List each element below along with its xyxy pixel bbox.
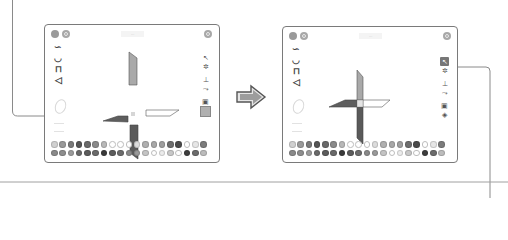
color-swatch[interactable] xyxy=(134,150,141,157)
color-swatch[interactable] xyxy=(59,150,66,157)
color-swatch[interactable] xyxy=(126,150,133,157)
color-swatch[interactable] xyxy=(372,150,379,157)
color-palette xyxy=(51,141,207,157)
color-swatch[interactable] xyxy=(430,141,437,148)
color-swatch[interactable] xyxy=(167,150,174,157)
color-swatch[interactable] xyxy=(405,141,412,148)
color-palette xyxy=(289,141,445,157)
color-swatch[interactable] xyxy=(126,141,133,148)
color-swatch[interactable] xyxy=(167,141,174,148)
color-swatch[interactable] xyxy=(297,150,304,157)
color-swatch[interactable] xyxy=(413,150,420,157)
before-panel: ... ∽ ◡ ⊓ ◁ ↖ ✲ ⊥ ⤳ ▣ xyxy=(44,24,220,163)
color-swatch[interactable] xyxy=(339,141,346,148)
color-swatch[interactable] xyxy=(314,141,321,148)
callout-line-right xyxy=(455,67,490,198)
color-swatch[interactable] xyxy=(289,150,296,157)
color-swatch[interactable] xyxy=(347,150,354,157)
color-swatch[interactable] xyxy=(339,150,346,157)
color-swatch[interactable] xyxy=(314,150,321,157)
color-swatch[interactable] xyxy=(134,141,141,148)
color-swatch[interactable] xyxy=(397,141,404,148)
color-swatch[interactable] xyxy=(84,141,91,148)
color-swatch[interactable] xyxy=(76,141,83,148)
color-swatch[interactable] xyxy=(51,150,58,157)
color-swatch[interactable] xyxy=(101,150,108,157)
color-swatch[interactable] xyxy=(306,141,313,148)
color-swatch[interactable] xyxy=(68,141,75,148)
color-swatch[interactable] xyxy=(355,150,362,157)
color-swatch[interactable] xyxy=(380,150,387,157)
color-swatch[interactable] xyxy=(355,141,362,148)
color-swatch[interactable] xyxy=(184,141,191,148)
color-swatch[interactable] xyxy=(151,141,158,148)
color-swatch[interactable] xyxy=(159,141,166,148)
color-swatch[interactable] xyxy=(117,150,124,157)
color-swatch[interactable] xyxy=(184,150,191,157)
color-swatch[interactable] xyxy=(322,150,329,157)
color-swatch[interactable] xyxy=(151,150,158,157)
center-marker xyxy=(357,100,363,107)
color-swatch[interactable] xyxy=(159,150,166,157)
color-swatch[interactable] xyxy=(430,150,437,157)
color-swatch[interactable] xyxy=(422,150,429,157)
color-swatch[interactable] xyxy=(175,141,182,148)
color-swatch[interactable] xyxy=(405,150,412,157)
color-swatch[interactable] xyxy=(364,141,371,148)
color-swatch[interactable] xyxy=(297,141,304,148)
color-swatch[interactable] xyxy=(389,150,396,157)
blade-top[interactable] xyxy=(357,70,363,100)
color-swatch[interactable] xyxy=(84,150,91,157)
after-panel: ... ∽ ◡ ⊓ ◁ ↖ ✲ ⊥ ⤳ ▣ ◈ xyxy=(282,26,458,163)
color-swatch[interactable] xyxy=(364,150,371,157)
color-swatch[interactable] xyxy=(92,141,99,148)
color-swatch[interactable] xyxy=(306,150,313,157)
color-swatch[interactable] xyxy=(109,150,116,157)
color-swatch[interactable] xyxy=(109,141,116,148)
color-swatch[interactable] xyxy=(192,150,199,157)
color-swatch[interactable] xyxy=(101,141,108,148)
color-swatch[interactable] xyxy=(389,141,396,148)
color-swatch[interactable] xyxy=(372,141,379,148)
color-swatch[interactable] xyxy=(322,141,329,148)
blade-left[interactable] xyxy=(103,116,128,122)
color-swatch[interactable] xyxy=(59,141,66,148)
color-swatch[interactable] xyxy=(380,141,387,148)
right-arrow-icon xyxy=(229,85,273,109)
color-swatch[interactable] xyxy=(51,141,58,148)
color-swatch[interactable] xyxy=(438,150,445,157)
color-swatch[interactable] xyxy=(76,150,83,157)
color-swatch[interactable] xyxy=(422,141,429,148)
color-swatch[interactable] xyxy=(92,150,99,157)
blade-left[interactable] xyxy=(329,100,357,107)
color-swatch[interactable] xyxy=(330,141,337,148)
color-swatch[interactable] xyxy=(117,141,124,148)
blade-top[interactable] xyxy=(129,52,137,85)
color-swatch[interactable] xyxy=(142,150,149,157)
color-swatch[interactable] xyxy=(200,141,207,148)
color-swatch[interactable] xyxy=(68,150,75,157)
color-swatch[interactable] xyxy=(438,141,445,148)
blade-right[interactable] xyxy=(363,100,390,107)
color-swatch[interactable] xyxy=(413,141,420,148)
color-swatch[interactable] xyxy=(192,141,199,148)
color-swatch[interactable] xyxy=(142,141,149,148)
blade-bottom[interactable] xyxy=(357,107,363,144)
color-swatch[interactable] xyxy=(330,150,337,157)
color-swatch[interactable] xyxy=(200,150,207,157)
color-swatch[interactable] xyxy=(347,141,354,148)
blade-right[interactable] xyxy=(146,110,179,116)
color-swatch[interactable] xyxy=(175,150,182,157)
color-swatch[interactable] xyxy=(397,150,404,157)
color-swatch[interactable] xyxy=(289,141,296,148)
center-marker xyxy=(131,112,135,116)
